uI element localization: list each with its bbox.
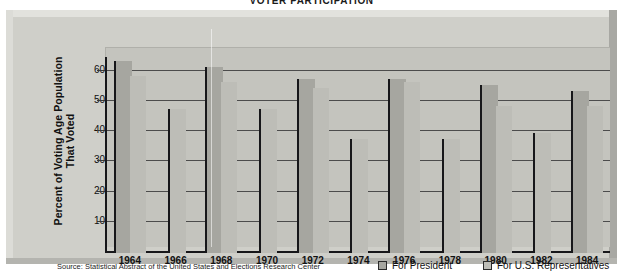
bar-group <box>244 47 290 253</box>
legend-label-president: For President <box>392 260 452 271</box>
bar-group <box>519 47 565 253</box>
chart-face: Percent of Voting Age Population That Vo… <box>13 17 609 258</box>
bar-representatives <box>350 139 368 253</box>
bar-representatives <box>442 139 460 253</box>
bar-representatives <box>313 88 329 253</box>
y-tick-mark <box>97 221 105 222</box>
y-tick-mark <box>97 160 105 161</box>
bar-group <box>564 47 610 253</box>
bar-group <box>473 47 519 253</box>
legend-swatch-representatives <box>483 261 492 270</box>
plate-bevel-left <box>6 10 13 264</box>
bar-group <box>381 47 427 253</box>
y-tick-mark <box>97 70 105 71</box>
y-tick-mark <box>97 100 105 101</box>
plate-bevel-top <box>6 10 617 17</box>
legend-label-representatives: For U.S. Representatives <box>497 260 609 271</box>
bar-group <box>107 47 153 253</box>
bar-group <box>198 47 244 253</box>
chart-root: VOTER PARTICIPATION Percent of Voting Ag… <box>0 0 623 272</box>
bar-representatives <box>221 82 237 253</box>
legend-swatch-president <box>378 261 387 270</box>
bar-representatives <box>404 82 420 253</box>
bar-representatives <box>259 109 277 253</box>
bar-group <box>336 47 382 253</box>
y-tick-mark <box>97 191 105 192</box>
bar-group <box>290 47 336 253</box>
bar-representatives <box>587 106 603 253</box>
bar-representatives <box>168 109 186 253</box>
scan-seam-artifact <box>211 29 212 247</box>
bar-representatives <box>496 106 512 253</box>
legend-item-representatives: For U.S. Representatives <box>483 260 609 271</box>
plate-bevel-right <box>609 10 617 264</box>
bar-series-container <box>107 47 610 253</box>
bar-group <box>427 47 473 253</box>
bar-representatives <box>533 133 551 253</box>
legend-item-president: For President <box>378 260 452 271</box>
y-tick-mark <box>97 130 105 131</box>
chart-title: VOTER PARTICIPATION <box>0 0 623 5</box>
bar-group <box>153 47 199 253</box>
x-tick-label: 1974 <box>336 255 382 267</box>
bar-representatives <box>130 76 146 253</box>
chart-plate-3d: Percent of Voting Age Population That Vo… <box>6 10 617 264</box>
source-note: Source: Statistical Abstract of the Unit… <box>57 262 320 271</box>
